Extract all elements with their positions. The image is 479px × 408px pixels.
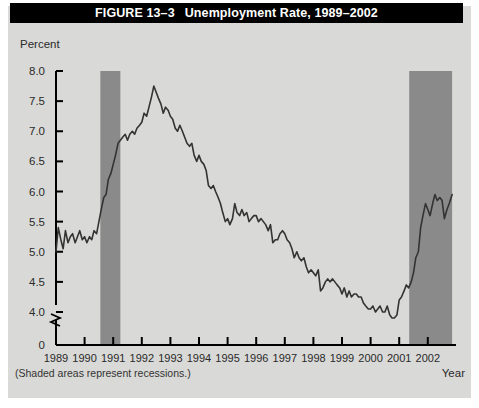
- y-tick-labels: 8.07.57.06.56.05.55.04.54.00: [29, 65, 45, 351]
- x-tick-label: 2001: [387, 352, 411, 364]
- x-tick-label: 1995: [215, 352, 239, 364]
- y-tick-label: 6.0: [29, 186, 45, 198]
- x-tick-label: 1999: [330, 352, 354, 364]
- x-tick-label: 1989: [44, 352, 68, 364]
- recession-band: [409, 71, 452, 345]
- x-tick-label: 1996: [244, 352, 268, 364]
- y-tick-label: 5.5: [29, 216, 45, 228]
- x-tick-label: 1994: [187, 352, 211, 364]
- x-tick-label: 1997: [273, 352, 297, 364]
- y-tick-label: 8.0: [29, 65, 45, 77]
- x-tick-label: 1990: [72, 352, 96, 364]
- recession-band: [100, 71, 120, 345]
- x-tick-label: 1992: [130, 352, 154, 364]
- x-tick-label: 1993: [158, 352, 182, 364]
- x-tick-label: 2002: [416, 352, 440, 364]
- x-tick-labels: 1989199019911992199319941995199619971998…: [44, 352, 440, 364]
- y-tick-label: 4.0: [29, 306, 45, 318]
- y-axis-break-mark: [51, 314, 60, 326]
- y-tick-label: 0: [39, 339, 45, 351]
- figure-container: FIGURE 13–3Unemployment Rate, 1989–2002 …: [0, 0, 479, 408]
- y-tick-label: 7.0: [29, 125, 45, 137]
- x-tick-label: 1998: [301, 352, 325, 364]
- y-tick-label: 6.5: [29, 155, 45, 167]
- chart-plot: 8.07.57.06.56.05.55.04.54.00 19891990199…: [0, 0, 479, 408]
- y-tick-label: 4.5: [29, 276, 45, 288]
- x-tick-label: 2000: [358, 352, 382, 364]
- y-tick-label: 5.0: [29, 246, 45, 258]
- y-tick-label: 7.5: [29, 95, 45, 107]
- x-tick-label: 1991: [101, 352, 125, 364]
